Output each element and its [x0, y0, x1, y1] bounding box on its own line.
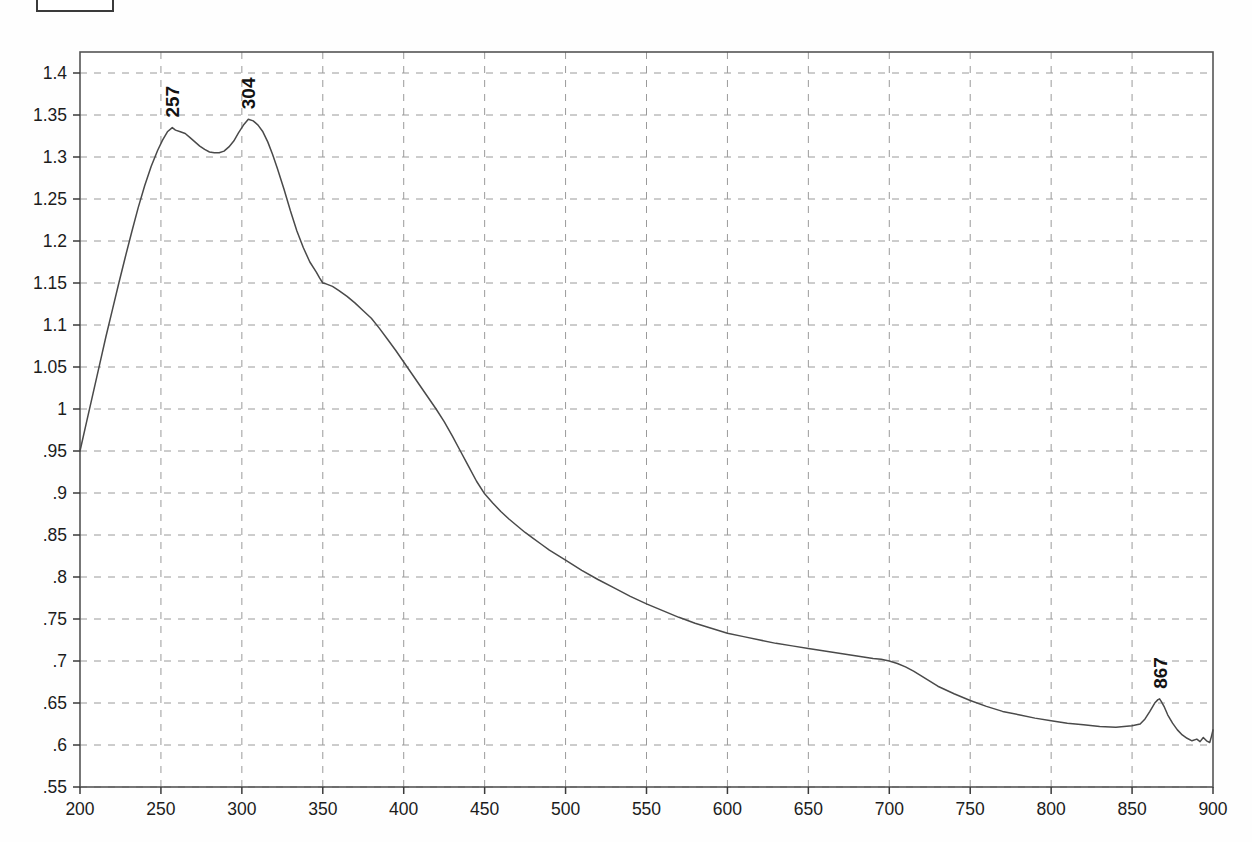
y-axis-tick-label: 1.4: [43, 63, 68, 83]
y-axis-tick-label: .95: [43, 441, 67, 461]
x-axis-tick-label: 350: [308, 799, 337, 819]
scanned-page: 143 1.41.351.31.251.21.151.11.051.95.9.8…: [0, 0, 1252, 842]
x-axis-tick-label: 200: [65, 799, 94, 819]
x-axis-tick-label: 250: [146, 799, 175, 819]
x-axis-tick-label: 700: [875, 799, 904, 819]
y-axis-tick-label: 1.3: [43, 147, 67, 167]
x-axis-tick-label: 900: [1198, 799, 1227, 819]
absorbance-spectrum-chart: 1.41.351.31.251.21.151.11.051.95.9.85.8.…: [0, 0, 1252, 842]
y-axis-tick-label: 1.25: [33, 189, 67, 209]
peak-label-867: 867: [1150, 657, 1171, 689]
chart-svg: 1.41.351.31.251.21.151.11.051.95.9.85.8.…: [0, 0, 1252, 842]
y-axis-tick-label: .9: [52, 483, 67, 503]
x-axis: 2002503003504004505005506006507007508008…: [65, 787, 1227, 819]
y-axis-tick-label: 1.05: [33, 357, 67, 377]
y-axis-tick-label: .65: [43, 693, 67, 713]
y-axis-tick-label: .85: [43, 525, 67, 545]
x-axis-tick-label: 550: [632, 799, 661, 819]
x-axis-tick-label: 750: [956, 799, 985, 819]
x-axis-tick-label: 600: [713, 799, 742, 819]
y-axis: 1.41.351.31.251.21.151.11.051.95.9.85.8.…: [33, 63, 80, 797]
peak-label-304: 304: [238, 77, 259, 109]
x-axis-tick-label: 800: [1037, 799, 1066, 819]
x-axis-tick-label: 500: [551, 799, 580, 819]
y-axis-tick-label: 1.1: [43, 315, 67, 335]
y-axis-tick-label: .6: [52, 735, 67, 755]
y-axis-tick-label: .8: [52, 567, 67, 587]
y-axis-tick-label: .7: [52, 651, 67, 671]
x-axis-tick-label: 300: [227, 799, 256, 819]
x-axis-tick-label: 450: [470, 799, 499, 819]
y-axis-tick-label: 1.35: [33, 105, 67, 125]
y-axis-tick-label: 1.15: [33, 273, 67, 293]
y-axis-tick-label: .75: [43, 609, 67, 629]
x-axis-tick-label: 650: [794, 799, 823, 819]
x-axis-tick-label: 400: [389, 799, 418, 819]
peak-label-257: 257: [162, 86, 183, 118]
x-axis-tick-label: 850: [1117, 799, 1146, 819]
y-axis-tick-label: .55: [43, 777, 67, 797]
y-axis-tick-label: 1.2: [43, 231, 67, 251]
y-axis-tick-label: 1: [57, 399, 67, 419]
